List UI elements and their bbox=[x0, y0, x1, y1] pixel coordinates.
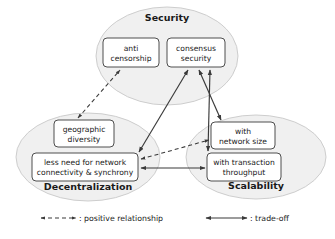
node-label-geographic-diversity-line2: diversity bbox=[68, 135, 101, 144]
diagram-canvas: Security Decentralization Scalability an… bbox=[0, 0, 335, 239]
node-label-with-transaction-throughput-line1: with transaction bbox=[213, 158, 275, 167]
node-label-anti-censorship-line1: anti bbox=[124, 44, 139, 53]
label-decentralization: Decentralization bbox=[44, 181, 133, 192]
node-label-geographic-diversity-line1: geographic bbox=[63, 125, 106, 134]
node-less-need-network[interactable]: less need for network connectivity & syn… bbox=[32, 153, 138, 181]
trilemma-diagram: Security Decentralization Scalability an… bbox=[0, 0, 335, 239]
node-label-consensus-security-line2: security bbox=[181, 54, 212, 63]
node-with-transaction-throughput[interactable]: with transaction throughput bbox=[207, 153, 281, 181]
node-geographic-diversity[interactable]: geographic diversity bbox=[54, 120, 114, 147]
label-scalability: Scalability bbox=[228, 180, 285, 191]
node-label-with-network-size-line2: network size bbox=[219, 137, 267, 146]
node-label-less-need-network-line2: connectivity & synchrony bbox=[37, 168, 134, 177]
node-label-anti-censorship-line2: censorship bbox=[110, 54, 151, 63]
node-label-with-transaction-throughput-line2: throughput bbox=[223, 168, 265, 177]
node-label-less-need-network-line1: less need for network bbox=[44, 158, 127, 167]
legend: : positive relationship : trade-off bbox=[41, 214, 290, 223]
node-consensus-security[interactable]: consensus security bbox=[167, 38, 225, 67]
node-label-with-network-size-line1: with bbox=[235, 127, 251, 136]
label-security: Security bbox=[145, 12, 190, 23]
node-label-consensus-security-line1: consensus bbox=[176, 44, 216, 53]
node-with-network-size[interactable]: with network size bbox=[211, 122, 275, 149]
legend-label-positive-relationship: : positive relationship bbox=[79, 214, 163, 223]
node-anti-censorship[interactable]: anti censorship bbox=[103, 38, 159, 67]
legend-label-trade-off: : trade-off bbox=[250, 214, 290, 223]
